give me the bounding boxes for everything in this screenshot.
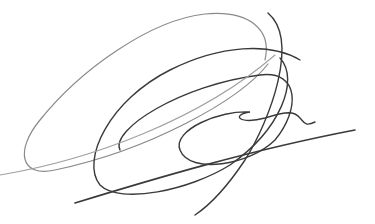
signature-canvas: Handwritten signature scribble (0, 0, 375, 224)
signature-underline (75, 130, 355, 203)
signature-inner-loop (195, 13, 282, 215)
signature-drawing (0, 0, 375, 224)
signature-middle-loop (94, 49, 300, 195)
signature-outer-loop (24, 13, 268, 171)
signature-small-loop (119, 75, 315, 165)
